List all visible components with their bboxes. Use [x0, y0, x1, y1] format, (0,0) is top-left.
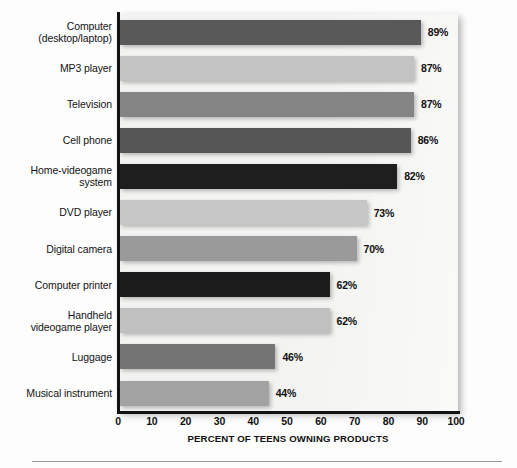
x-tick-label: 40	[248, 415, 259, 427]
category-label: Musical instrument	[0, 387, 112, 399]
bar-value-label: 44%	[276, 387, 296, 399]
x-tick-label: 10	[146, 415, 157, 427]
bar-row: Cell phone86%	[0, 122, 517, 158]
category-label: Luggage	[0, 351, 112, 363]
bar[interactable]	[120, 272, 330, 297]
x-tick-label: 80	[383, 415, 394, 427]
bar-rows: Computer (desktop/laptop)89%MP3 player87…	[0, 14, 517, 411]
category-label: MP3 player	[0, 62, 112, 74]
bar-row: Handheld videogame player62%	[0, 303, 517, 339]
category-label: Digital camera	[0, 243, 112, 255]
bar-value-label: 62%	[337, 279, 357, 291]
category-label: DVD player	[0, 206, 112, 218]
bar-track: 46%	[120, 339, 458, 375]
bar[interactable]	[120, 164, 397, 189]
x-axis-line	[117, 411, 460, 414]
category-label: Home-videogame system	[0, 164, 112, 188]
bar-value-label: 89%	[428, 26, 448, 38]
x-tick-label: 60	[315, 415, 326, 427]
bar-row: Digital camera70%	[0, 231, 517, 267]
bar-track: 87%	[120, 50, 458, 86]
bar-value-label: 86%	[418, 134, 438, 146]
bar-value-label: 62%	[337, 315, 357, 327]
bar[interactable]	[120, 128, 411, 153]
bar-row: Luggage46%	[0, 339, 517, 375]
bar-row: Home-videogame system82%	[0, 158, 517, 194]
bar-row: Television87%	[0, 86, 517, 122]
bar-track: 82%	[120, 158, 458, 194]
bar-track: 86%	[120, 122, 458, 158]
bar[interactable]	[120, 344, 275, 369]
bar[interactable]	[120, 20, 421, 45]
bar-row: MP3 player87%	[0, 50, 517, 86]
bar-row: Computer (desktop/laptop)89%	[0, 14, 517, 50]
x-tick-label: 30	[214, 415, 225, 427]
chart-figure: Computer (desktop/laptop)89%MP3 player87…	[0, 0, 517, 468]
bar-value-label: 46%	[282, 351, 302, 363]
x-axis-title: PERCENT OF TEENS OWNING PRODUCTS	[118, 433, 458, 444]
bar-value-label: 82%	[404, 170, 424, 182]
bar-track: 89%	[120, 14, 458, 50]
bar-value-label: 70%	[364, 243, 384, 255]
bar[interactable]	[120, 92, 414, 117]
bar-value-label: 87%	[421, 62, 441, 74]
x-tick-label: 20	[180, 415, 191, 427]
bar-track: 62%	[120, 267, 458, 303]
bar-track: 73%	[120, 195, 458, 231]
x-tick-label: 0	[115, 415, 121, 427]
bar-track: 70%	[120, 231, 458, 267]
bar-value-label: 87%	[421, 98, 441, 110]
bar-row: DVD player73%	[0, 195, 517, 231]
bar[interactable]	[120, 56, 414, 81]
x-tick-label: 50	[281, 415, 292, 427]
x-axis-ticks: 0102030405060708090100	[0, 415, 517, 431]
bar-track: 44%	[120, 375, 458, 411]
bar-row: Computer printer62%	[0, 267, 517, 303]
bar-value-label: 73%	[374, 207, 394, 219]
bottom-divider-rule	[32, 461, 502, 462]
category-label: Television	[0, 98, 112, 110]
category-label: Handheld videogame player	[0, 309, 112, 333]
bar[interactable]	[120, 381, 269, 406]
x-tick-label: 90	[417, 415, 428, 427]
bar-track: 87%	[120, 86, 458, 122]
category-label: Computer printer	[0, 279, 112, 291]
bar[interactable]	[120, 200, 367, 225]
x-tick-label: 70	[349, 415, 360, 427]
bar-row: Musical instrument44%	[0, 375, 517, 411]
category-label: Cell phone	[0, 134, 112, 146]
category-label: Computer (desktop/laptop)	[0, 20, 112, 44]
x-tick-label: 100	[448, 415, 465, 427]
bar-track: 62%	[120, 303, 458, 339]
bar[interactable]	[120, 236, 357, 261]
bar[interactable]	[120, 308, 330, 333]
